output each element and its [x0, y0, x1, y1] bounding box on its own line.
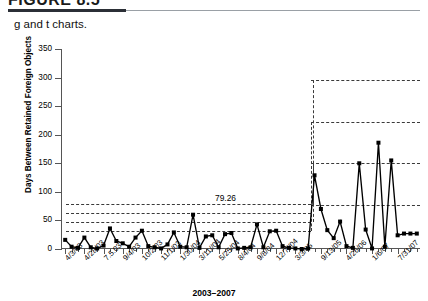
data-point-marker: [223, 232, 227, 236]
data-point-marker: [306, 246, 310, 250]
data-point-marker: [415, 232, 419, 236]
data-point-marker: [127, 245, 131, 249]
figure-page: FIGURE 8.5 g and t charts. Days Between …: [0, 0, 428, 301]
data-point-marker: [281, 244, 285, 248]
data-point-marker: [255, 222, 259, 226]
data-point-marker: [95, 246, 99, 250]
data-point-marker: [153, 245, 157, 249]
data-point-marker: [165, 242, 169, 246]
data-point-marker: [383, 245, 387, 249]
data-point-marker: [389, 158, 393, 162]
data-point-marker: [408, 232, 412, 236]
data-point-marker: [236, 246, 240, 250]
data-point-marker: [338, 220, 342, 224]
data-point-marker: [210, 233, 214, 237]
data-point-marker: [121, 241, 125, 245]
data-point-marker: [217, 245, 221, 249]
data-point-marker: [319, 207, 323, 211]
data-point-marker: [114, 239, 118, 243]
data-point-marker: [332, 236, 336, 240]
data-point-marker: [287, 246, 291, 250]
data-point-marker: [89, 245, 93, 249]
data-point-marker: [185, 245, 189, 249]
figure-number: FIGURE 8.5: [8, 0, 100, 8]
data-point-marker: [261, 245, 265, 249]
data-point-marker: [134, 236, 138, 240]
data-point-marker: [344, 244, 348, 248]
data-point-marker: [242, 246, 246, 250]
data-point-marker: [325, 228, 329, 232]
data-point-marker: [274, 229, 278, 233]
data-point-marker: [102, 244, 106, 248]
data-point-marker: [396, 233, 400, 237]
data-point-marker: [229, 231, 233, 235]
data-series-line: [0, 38, 428, 268]
series-path: [65, 143, 417, 249]
data-point-marker: [204, 234, 208, 238]
data-point-marker: [293, 246, 297, 250]
data-point-marker: [268, 229, 272, 233]
control-chart: Days Between Retained Foreign Objects 05…: [0, 38, 428, 301]
data-point-marker: [313, 173, 317, 177]
header-rule-dark: [8, 9, 126, 12]
data-point-marker: [146, 244, 150, 248]
data-point-marker: [108, 226, 112, 230]
data-point-marker: [159, 246, 163, 250]
data-point-marker: [249, 245, 253, 249]
x-axis-title: 2003–2007: [0, 288, 428, 298]
data-point-marker: [63, 238, 67, 242]
header-rule: [8, 9, 420, 12]
data-point-marker: [370, 246, 374, 250]
data-point-marker: [402, 232, 406, 236]
data-point-marker: [82, 236, 86, 240]
data-point-marker: [178, 245, 182, 249]
data-point-marker: [172, 230, 176, 234]
data-point-marker: [191, 213, 195, 217]
data-point-marker: [76, 246, 80, 250]
data-point-marker: [364, 228, 368, 232]
data-point-marker: [70, 245, 74, 249]
data-point-marker: [197, 246, 201, 250]
data-point-marker: [140, 229, 144, 233]
data-point-marker: [376, 141, 380, 145]
data-point-marker: [351, 246, 355, 250]
header-rule-light: [126, 10, 420, 11]
data-point-marker: [300, 247, 304, 251]
data-point-marker: [357, 161, 361, 165]
